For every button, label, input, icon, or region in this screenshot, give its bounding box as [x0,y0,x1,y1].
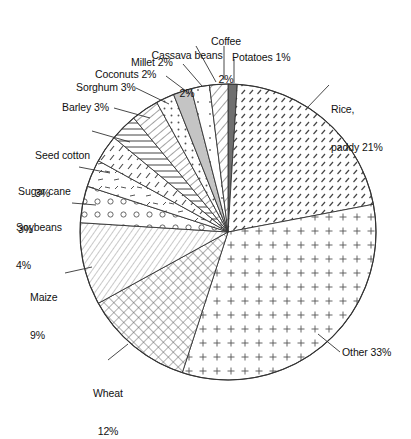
label-maize-value: 9% [30,329,58,342]
label-potatoes: Potatoes 1% [232,51,290,64]
leader-rice [307,85,329,108]
label-maize: Maize 9% [30,266,58,366]
leader-wheat [108,344,128,360]
label-coconuts: Coconuts 2% [95,68,156,81]
label-maize-name: Maize [30,291,58,304]
label-barley: Barley 3% [62,101,109,114]
label-rice-value: paddy 21% [331,141,383,154]
label-rice-paddy: Rice, paddy 21% [331,78,383,178]
label-other: Other 33% [342,346,391,359]
label-wheat: Wheat 12% [78,362,138,439]
label-soybeans-name: Soybeans [16,221,62,234]
label-sorghum: Sorghum 3% [76,81,136,94]
label-rice-name: Rice, [331,103,383,116]
label-millet: Millet 2% [131,56,173,69]
label-cassava-value: 2% [141,87,233,100]
label-wheat-value: 12% [78,425,138,438]
label-wheat-name: Wheat [78,387,138,400]
